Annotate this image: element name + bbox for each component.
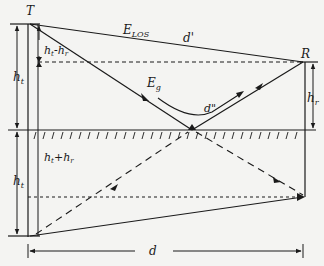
incident-arrowhead (141, 93, 149, 101)
reflection-point-marker (188, 124, 196, 130)
label-sum-h: ht+hr (44, 151, 74, 165)
label-distance: d (149, 244, 157, 258)
los-ray (30, 24, 303, 62)
d2-arrowhead (236, 91, 244, 98)
d2-curve (158, 94, 240, 115)
label-receiver: R (300, 47, 310, 61)
label-transmitter: T (26, 4, 35, 18)
two-ray-diagram: T R ELOS d' Eg d" ht ht hr ht-hr ht+hr d (0, 0, 324, 266)
image-ray-left (36, 132, 188, 234)
label-diff-h: ht-hr (44, 44, 69, 58)
reflected-ray (192, 62, 303, 130)
image-los-line (30, 197, 303, 236)
ground-hatching (34, 132, 297, 139)
image-ray-left-arrowhead (110, 184, 118, 191)
incident-ray (30, 24, 192, 130)
label-ground-field: Eg (146, 76, 161, 92)
label-los-distance: d' (183, 31, 194, 45)
image-ray-right-arrowhead (273, 177, 281, 183)
reflected-arrowhead (255, 83, 263, 90)
label-reflected-distance: d" (204, 102, 216, 115)
label-hr: hr (307, 91, 320, 107)
label-ht-upper: ht (13, 70, 25, 86)
image-ray-right (196, 132, 303, 195)
label-los-field: ELOS (122, 23, 150, 39)
label-ht-lower: ht (13, 174, 25, 190)
